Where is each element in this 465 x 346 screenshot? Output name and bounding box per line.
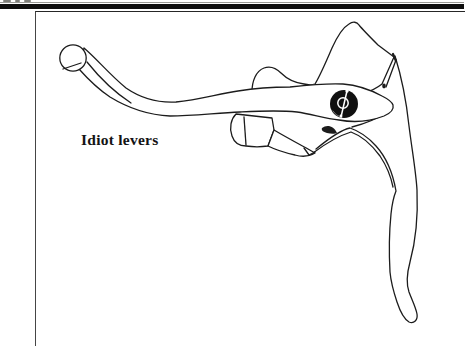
clamp-band-outline	[231, 114, 274, 147]
ball-end	[60, 45, 86, 71]
figure-caption: Idiot levers	[81, 131, 158, 149]
drawing-ink-group	[60, 22, 417, 322]
pivot-detail-dot	[382, 84, 386, 89]
blade-inner-edge-line	[313, 132, 393, 187]
cable-hook-detail	[322, 126, 337, 134]
lever-tab-outline	[268, 130, 315, 156]
emblem-dot-top	[345, 89, 348, 92]
